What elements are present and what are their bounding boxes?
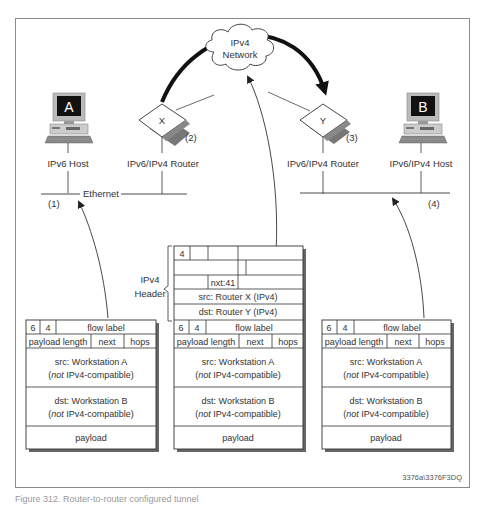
- host-a-letter: A: [64, 99, 74, 115]
- step-2-label: (2): [185, 132, 197, 143]
- field-version: 6: [326, 323, 331, 333]
- host-b-computer-icon: B: [399, 93, 447, 143]
- ipv4-field-next: nxt:41: [211, 278, 236, 288]
- ipv4-field-dst: dst: Router Y (IPv4): [199, 307, 278, 317]
- router-y-letter: Y: [320, 115, 327, 126]
- field-dst: dst: Workstation B: [55, 396, 128, 406]
- arrow-to-step-ipv4: [248, 77, 277, 252]
- field-payload: payload: [75, 433, 107, 443]
- field-payload-length: payload length: [29, 337, 88, 347]
- field-src-compat: (not IPv4-compatible): [343, 370, 429, 380]
- tunnel-diagram: IPv4 Network A IPv6 Host X (2) IPv6/IPv4…: [0, 0, 485, 506]
- host-a-computer-icon: A: [45, 93, 93, 143]
- field-hops: hops: [278, 337, 298, 347]
- router-x-letter: X: [159, 115, 166, 126]
- field-hops: hops: [130, 337, 150, 347]
- field-flow-label: flow label: [87, 323, 125, 333]
- ethernet-label: Ethernet: [83, 188, 119, 199]
- field-next: next: [98, 337, 116, 347]
- ipv4-header-label-line2: Header: [134, 288, 165, 299]
- field-payload: payload: [370, 433, 402, 443]
- field-dst-compat: (not IPv4-compatible): [343, 409, 429, 419]
- field-src-compat: (not IPv4-compatible): [48, 370, 134, 380]
- step-3-label: (3): [346, 132, 358, 143]
- packet-ipv4-encapsulated: 4 nxt:41 src: Router X (IPv4) dst: Route…: [174, 246, 306, 452]
- field-traffic-class: 4: [194, 323, 199, 333]
- field-src: src: Workstation A: [55, 357, 127, 367]
- host-b-label: IPv6/IPv4 Host: [390, 158, 453, 169]
- field-flow-label: flow label: [235, 323, 273, 333]
- cloud-label-line2: Network: [223, 49, 258, 60]
- field-hops: hops: [425, 337, 445, 347]
- field-dst-compat: (not IPv4-compatible): [195, 409, 281, 419]
- field-src: src: Workstation A: [350, 357, 422, 367]
- field-next: next: [394, 337, 412, 347]
- host-a-label: IPv6 Host: [47, 158, 89, 169]
- step-1-label: (1): [48, 198, 60, 209]
- arrow-to-step-1: [79, 202, 108, 318]
- field-next: next: [246, 337, 264, 347]
- field-traffic-class: 4: [45, 323, 50, 333]
- field-dst: dst: Workstation B: [202, 396, 275, 406]
- ipv4-network-cloud: IPv4 Network: [206, 24, 274, 70]
- field-version: 6: [178, 323, 183, 333]
- router-y-label: IPv6/IPv4 Router: [287, 158, 359, 169]
- ipv4-field-src: src: Router X (IPv4): [198, 292, 277, 302]
- step-4-label: (4): [428, 198, 440, 209]
- figure-caption: Figure 312. Router-to-router configured …: [15, 494, 199, 504]
- router-x-icon: X: [139, 104, 190, 146]
- router-x-label: IPv6/IPv4 Router: [127, 158, 199, 169]
- ipv4-field-version: 4: [179, 249, 184, 259]
- packet-ipv6-at-step-1: 6 4 flow label payload length next hops …: [26, 320, 159, 452]
- field-payload-length: payload length: [325, 337, 384, 347]
- cloud-label-line1: IPv4: [230, 37, 249, 48]
- field-src: src: Workstation A: [202, 357, 274, 367]
- arrow-to-step-4: [393, 199, 424, 318]
- field-payload: payload: [222, 433, 254, 443]
- host-b-letter: B: [418, 99, 427, 115]
- field-flow-label: flow label: [383, 323, 421, 333]
- packet-ipv6-at-step-4: 6 4 flow label payload length next hops …: [322, 320, 454, 452]
- field-dst: dst: Workstation B: [350, 396, 423, 406]
- field-dst-compat: (not IPv4-compatible): [48, 409, 134, 419]
- figure-id: 3376a\3376F3DQ: [402, 473, 462, 482]
- field-version: 6: [30, 323, 35, 333]
- ipv4-header-label-line1: IPv4: [140, 274, 159, 285]
- field-payload-length: payload length: [177, 337, 236, 347]
- field-src-compat: (not IPv4-compatible): [195, 370, 281, 380]
- field-traffic-class: 4: [342, 323, 347, 333]
- ipv4-header-bracket: [164, 246, 172, 321]
